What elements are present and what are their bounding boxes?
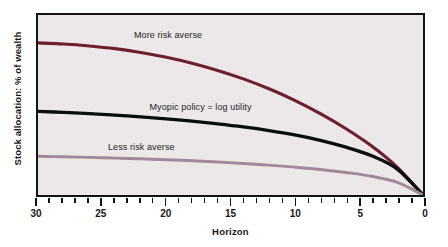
x-axis-tick-major [230, 198, 232, 206]
x-axis-tick-minor [217, 198, 219, 203]
series-label-less-risk-averse: Less risk averse [108, 142, 175, 152]
x-axis-tick-minor [61, 198, 63, 203]
x-axis-tick-major [35, 198, 37, 206]
series-line-more-risk-averse [38, 43, 423, 195]
x-axis-tick-minor [191, 198, 193, 203]
x-axis-tick-label: 30 [30, 208, 41, 219]
x-axis-tick-minor [256, 198, 258, 203]
x-axis-tick-major [424, 198, 426, 206]
x-axis-tick-minor [178, 198, 180, 203]
y-axis-title: Stock allocation: % of wealth [0, 0, 36, 197]
series-label-more-risk-averse: More risk averse [134, 30, 202, 40]
x-axis-tick-label: 10 [290, 208, 301, 219]
x-axis-tick-minor [87, 198, 89, 203]
x-axis-tick-minor [347, 198, 349, 203]
x-axis-tick-minor [113, 198, 115, 203]
x-axis-tick-minor [398, 198, 400, 203]
x-axis-tick-minor [321, 198, 323, 203]
x-axis-tick-minor [372, 198, 374, 203]
x-axis-tick-minor [411, 198, 413, 203]
x-axis-tick-major [165, 198, 167, 206]
x-axis-tick-minor [126, 198, 128, 203]
x-axis-tick-label: 5 [357, 208, 363, 219]
x-axis-tick-minor [152, 198, 154, 203]
x-axis-tick-minor [243, 198, 245, 203]
chart-figure: Stock allocation: % of wealth More risk … [0, 0, 448, 247]
x-axis-tick-minor [308, 198, 310, 203]
x-axis-tick-minor [334, 198, 336, 203]
x-axis-tick-minor [48, 198, 50, 203]
x-axis-tick-label: 25 [95, 208, 106, 219]
x-axis-tick-major [295, 198, 297, 206]
series-line-less-risk-averse [38, 156, 423, 195]
x-axis-tick-minor [385, 198, 387, 203]
x-axis-tick-label: 0 [422, 208, 428, 219]
x-axis-title: Horizon [36, 226, 425, 237]
x-axis-tick-minor [204, 198, 206, 203]
plot-area: More risk averse Myopic policy = log uti… [36, 13, 425, 197]
curve-group [38, 43, 423, 195]
x-axis-tick-minor [139, 198, 141, 203]
x-axis-tick-minor [269, 198, 271, 203]
x-axis-tick-minor [282, 198, 284, 203]
y-axis-title-text: Stock allocation: % of wealth [13, 32, 24, 166]
x-axis-tick-minor [74, 198, 76, 203]
x-axis-tick-major [359, 198, 361, 206]
series-label-myopic-policy: Myopic policy = log utility [150, 102, 252, 112]
x-axis-tick-label: 15 [225, 208, 236, 219]
x-axis-tick-major [100, 198, 102, 206]
x-axis-tick-label: 20 [160, 208, 171, 219]
series-line-myopic-policy-log-utility [38, 111, 423, 195]
